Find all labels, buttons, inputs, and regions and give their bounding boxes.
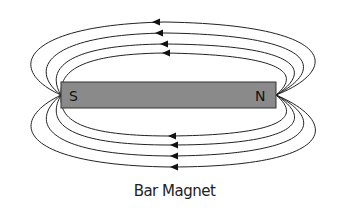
arrow-left-icon [170,153,178,160]
north-pole-label: N [255,88,265,104]
arrow-left-icon [152,19,160,26]
arrow-left-icon [162,50,170,57]
arrow-left-icon [170,142,178,149]
arrow-left-icon [170,164,178,171]
arrow-left-icon [160,41,168,48]
diagram-caption: Bar Magnet [0,182,349,200]
bar-magnet [61,82,276,108]
south-pole-label: S [69,88,78,104]
arrow-left-icon [168,133,176,140]
arrow-left-icon [155,30,163,37]
